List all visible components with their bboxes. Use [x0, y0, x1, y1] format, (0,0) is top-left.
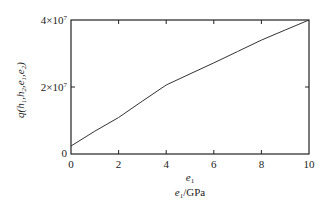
- x-axis-symbol: e1: [186, 171, 195, 185]
- y-axis-label: q(h1,h2,e1,e2): [14, 62, 28, 118]
- x-tick-label: 4: [163, 158, 169, 170]
- y-tick-label: 2×107: [41, 81, 68, 93]
- x-tick-label: 10: [304, 158, 316, 170]
- y-tick-label: 4×107: [41, 14, 68, 26]
- line-chart: 024681002×1074×107 q(h1,h2,e1,e2) e1 e1/…: [0, 0, 328, 212]
- x-tick-label: 0: [68, 158, 74, 170]
- tick-labels: 024681002×1074×107: [41, 14, 315, 170]
- y-tick-label: 0: [62, 147, 68, 159]
- series-line: [71, 20, 309, 146]
- plot-frame: [71, 20, 309, 154]
- x-tick-label: 6: [211, 158, 217, 170]
- x-tick-label: 8: [259, 158, 265, 170]
- axis-ticks: [71, 20, 309, 154]
- x-axis-label: e1/GPa: [175, 186, 206, 200]
- plot-area: [71, 20, 309, 154]
- x-tick-label: 2: [116, 158, 122, 170]
